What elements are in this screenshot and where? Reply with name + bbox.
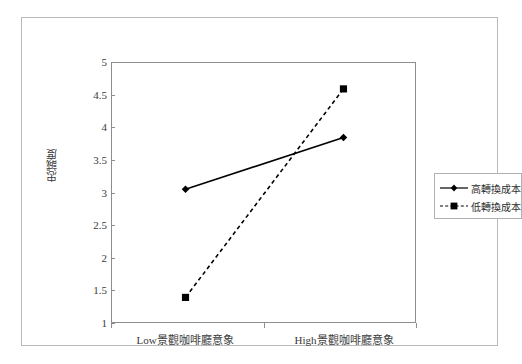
y-tick-label: 3.5 (77, 154, 107, 165)
plot-area (111, 62, 416, 323)
legend: 高轉換成本 低轉換成本 (434, 173, 522, 219)
data-point-0-0 (182, 185, 190, 193)
legend-item-0: 高轉換成本 (439, 179, 517, 197)
x-tick-label: Low景觀咖啡廳意象 (136, 331, 233, 347)
y-axis-title: 忠誠度 (46, 149, 62, 182)
y-tick-label: 4 (77, 122, 107, 133)
y-tick-label: 2 (77, 252, 107, 263)
x-tick-mark (264, 323, 265, 328)
y-tick-label: 3 (77, 187, 107, 198)
y-tick-mark (111, 95, 115, 96)
legend-label-0: 高轉換成本 (469, 181, 521, 196)
y-tick-mark (111, 258, 115, 259)
y-tick-label: 4.5 (77, 89, 107, 100)
y-tick-mark (111, 193, 115, 194)
data-point-0-1 (340, 134, 348, 142)
legend-line-dashed-square-icon (439, 199, 469, 213)
data-point-1-1 (340, 85, 347, 92)
legend-label-1: 低轉換成本 (469, 199, 521, 214)
legend-item-1: 低轉換成本 (439, 197, 517, 215)
y-tick-label: 2.5 (77, 220, 107, 231)
y-tick-mark (111, 160, 115, 161)
data-point-1-0 (182, 294, 189, 301)
y-tick-mark (111, 290, 115, 291)
x-tick-label: High景觀咖啡廳意象 (295, 331, 394, 347)
y-tick-mark (111, 127, 115, 128)
y-tick-label: 1 (77, 318, 107, 329)
y-tick-label: 5 (77, 57, 107, 68)
x-tick-mark (416, 323, 417, 328)
y-tick-mark (111, 225, 115, 226)
series-line-0 (186, 137, 344, 189)
y-axis-tick-labels: 11.522.533.544.55 (74, 62, 107, 323)
y-tick-mark (111, 62, 115, 63)
plot-series-svg (112, 63, 415, 322)
chart-frame: 忠誠度 11.522.533.544.55 高轉換成本 低轉換成本 (21, 17, 498, 346)
legend-line-solid-diamond-icon (439, 181, 469, 195)
y-tick-label: 1.5 (77, 285, 107, 296)
series-line-1 (186, 89, 344, 297)
x-tick-mark (111, 323, 112, 328)
